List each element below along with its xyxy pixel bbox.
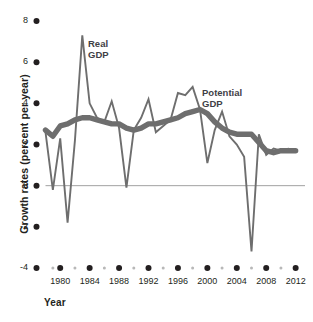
y-tick-label: 4 (6, 97, 28, 107)
x-tick-dot (87, 265, 93, 271)
x-tick-dot (146, 265, 152, 271)
x-tick-label: 1988 (104, 276, 134, 286)
y-tick-label: -4 (6, 262, 28, 272)
x-tick-label: 2004 (222, 276, 252, 286)
y-tick-label: 0 (6, 180, 28, 190)
y-tick-dot (34, 265, 40, 271)
y-tick-dot (34, 224, 40, 230)
x-tick-dot (57, 265, 63, 271)
x-tick-label: 1996 (163, 276, 193, 286)
x-tick-label: 2012 (281, 276, 311, 286)
x-tick-dot (234, 265, 240, 271)
x-axis-title: Year (44, 297, 66, 308)
y-tick-dot (34, 18, 40, 24)
x-tick-dot (175, 265, 181, 271)
x-tick-dot (263, 265, 269, 271)
series-label-potential-gdp: Potential GDP (202, 88, 242, 109)
x-minor-tick-dot (221, 267, 224, 270)
x-minor-tick-dot (279, 267, 282, 270)
x-minor-tick-dot (250, 267, 253, 270)
y-tick-label: 6 (6, 56, 28, 66)
x-tick-label: 1984 (75, 276, 105, 286)
y-tick-label: 2 (6, 139, 28, 149)
y-tick-dot (34, 100, 40, 106)
y-tick-dot (34, 183, 40, 189)
x-tick-label: 2000 (192, 276, 222, 286)
y-tick-label: -2 (6, 221, 28, 231)
x-tick-label: 1992 (134, 276, 164, 286)
x-minor-tick-dot (103, 267, 106, 270)
x-tick-dot (204, 265, 210, 271)
gdp-growth-chart: Growth rates (percent per year) Year Rea… (0, 0, 313, 322)
series-lines (46, 35, 296, 251)
x-tick-dot (293, 265, 299, 271)
x-minor-tick-dot (191, 267, 194, 270)
x-tick-label: 1980 (45, 276, 75, 286)
x-minor-tick-dot (51, 267, 54, 270)
series-label-real-gdp: Real GDP (88, 39, 109, 60)
y-tick-dot (34, 142, 40, 148)
y-axis-title: Growth rates (percent per year) (18, 69, 30, 239)
chart-plot-area (0, 0, 313, 322)
y-tick-label: 8 (6, 15, 28, 25)
y-tick-dot (34, 59, 40, 65)
x-tick-dot (116, 265, 122, 271)
x-minor-tick-dot (162, 267, 165, 270)
x-tick-label: 2008 (251, 276, 281, 286)
x-minor-tick-dot (73, 267, 76, 270)
x-minor-tick-dot (132, 267, 135, 270)
